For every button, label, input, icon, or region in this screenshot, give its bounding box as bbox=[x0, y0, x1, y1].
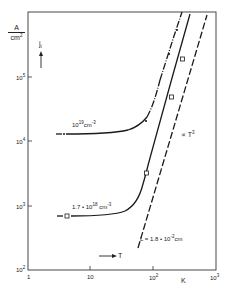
plot-frame bbox=[28, 12, 216, 270]
y-tick-1e5: 105 bbox=[16, 74, 25, 81]
diffusion-length-label: L = 1.8 • 10-2cm bbox=[140, 235, 182, 242]
x-tick-100: 102 bbox=[149, 274, 158, 281]
y-unit-numerator: A bbox=[8, 24, 25, 33]
x-ticks bbox=[90, 266, 153, 270]
x-tick-1: 1 bbox=[27, 274, 30, 280]
series-1.7e18-markers bbox=[65, 57, 185, 218]
y-tick-1e2: 102 bbox=[16, 266, 25, 273]
y-axis-unit: A cm2 bbox=[8, 24, 25, 41]
x-axis-variable: T bbox=[118, 252, 122, 259]
y-direction-arrow bbox=[39, 51, 43, 68]
y-axis-variable: jt bbox=[39, 40, 42, 50]
x-direction-arrow bbox=[99, 254, 117, 258]
y-unit-denominator: cm2 bbox=[8, 33, 25, 41]
series-label-1e19: 1019cm-3 bbox=[72, 121, 96, 128]
y-tick-1e3: 103 bbox=[16, 203, 25, 210]
x-axis-unit: K bbox=[181, 277, 186, 284]
chart-canvas bbox=[0, 0, 233, 292]
x-tick-10: 10 bbox=[87, 274, 94, 280]
x-tick-1000: 103 bbox=[210, 274, 219, 281]
series-label-1.7e18: 1.7 • 1018 cm-3 bbox=[72, 203, 111, 210]
y-tick-1e4: 104 bbox=[16, 138, 25, 145]
y-ticks bbox=[28, 77, 32, 206]
series-1e19 bbox=[56, 12, 182, 134]
series-1.7e18 bbox=[57, 14, 190, 216]
series-L-dashed bbox=[138, 15, 207, 248]
proportional-t3-label: ∝ T3 bbox=[181, 131, 195, 138]
